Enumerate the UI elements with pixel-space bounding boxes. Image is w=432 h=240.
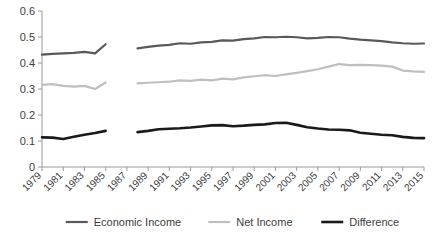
y-tick-label: 0.5 xyxy=(20,31,35,43)
series-line-economic-income xyxy=(138,37,425,49)
x-tick-label: 1993 xyxy=(168,169,192,193)
y-axis: 00.10.20.30.40.50.6 xyxy=(20,5,42,173)
x-tick-label: 2003 xyxy=(275,169,299,193)
series-line-net-income xyxy=(42,83,106,90)
series-line-difference xyxy=(138,123,425,138)
series-lines xyxy=(42,37,424,139)
x-tick-label: 1997 xyxy=(211,169,235,193)
x-axis: 1979198119831985198719891991199319951997… xyxy=(20,167,426,193)
y-tick-label: 0.4 xyxy=(20,57,35,69)
x-tick-label: 2009 xyxy=(338,169,362,193)
chart-legend: Economic IncomeNet IncomeDifference xyxy=(66,216,399,228)
x-tick-label: 2001 xyxy=(253,169,277,193)
line-chart: 00.10.20.30.40.50.6 19791981198319851987… xyxy=(0,0,432,240)
x-tick-label: 2005 xyxy=(296,169,320,193)
chart-canvas: 00.10.20.30.40.50.6 19791981198319851987… xyxy=(0,0,432,240)
x-tick-label: 1987 xyxy=(105,169,129,193)
series-line-net-income xyxy=(138,64,425,83)
x-tick-label: 1989 xyxy=(126,169,150,193)
x-tick-label: 1991 xyxy=(147,169,171,193)
legend-label: Difference xyxy=(349,216,399,228)
series-line-economic-income xyxy=(42,44,106,54)
x-tick-label: 1985 xyxy=(84,169,108,193)
x-tick-label: 2015 xyxy=(402,169,426,193)
x-tick-label: 2013 xyxy=(381,169,405,193)
y-tick-label: 0.1 xyxy=(20,135,35,147)
x-tick-label: 1999 xyxy=(232,169,256,193)
x-tick-label: 2007 xyxy=(317,169,341,193)
legend-label: Net Income xyxy=(236,216,292,228)
y-tick-label: 0.3 xyxy=(20,83,35,95)
x-tick-label: 1983 xyxy=(62,169,86,193)
y-tick-label: 0.2 xyxy=(20,109,35,121)
y-tick-label: 0.6 xyxy=(20,5,35,17)
x-tick-label: 2011 xyxy=(360,169,383,192)
legend-label: Economic Income xyxy=(94,216,181,228)
x-tick-label: 1981 xyxy=(41,169,65,193)
x-tick-label: 1995 xyxy=(190,169,214,193)
series-line-difference xyxy=(42,131,106,139)
x-tick-label: 1979 xyxy=(20,169,44,193)
